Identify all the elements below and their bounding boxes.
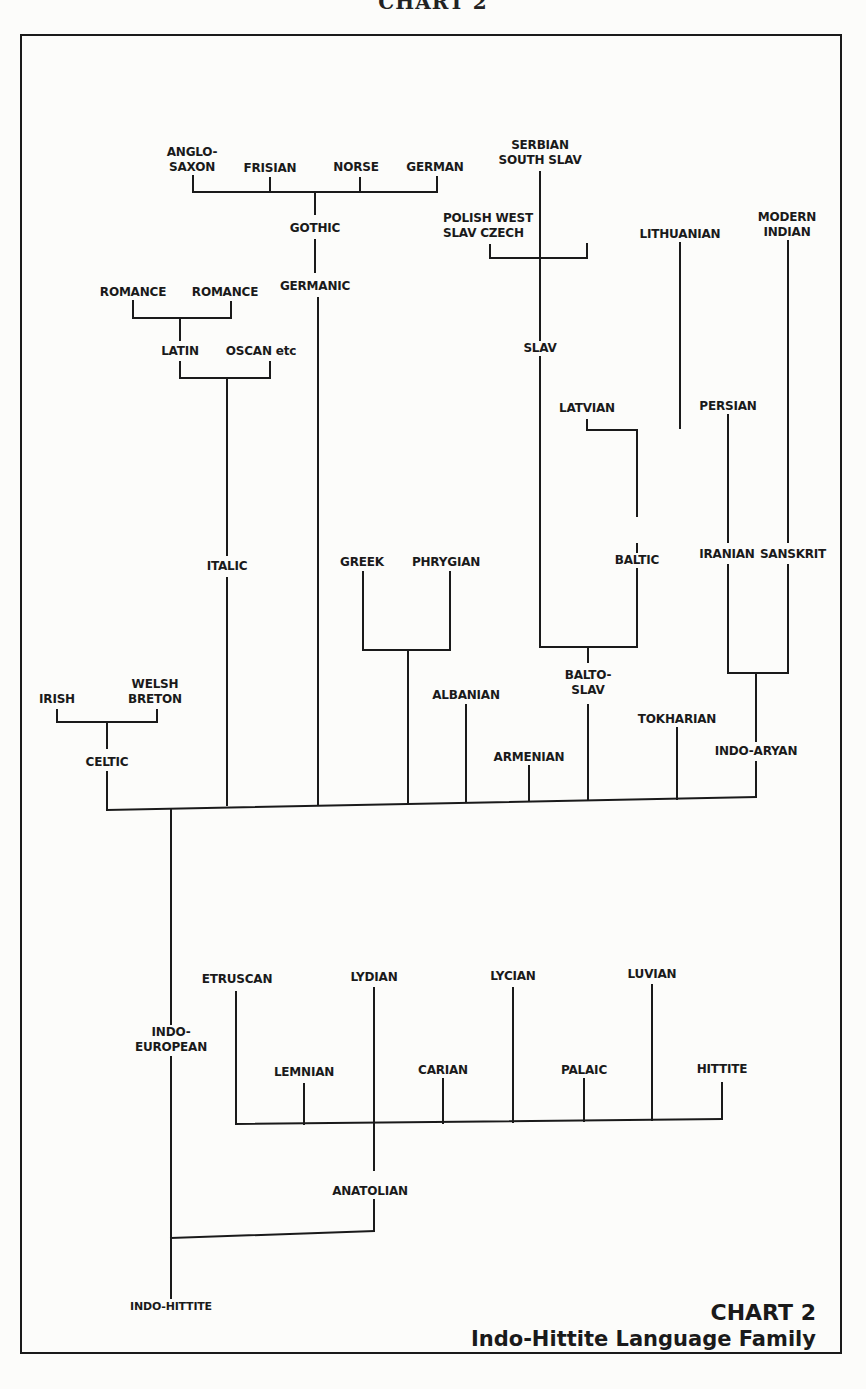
node-lemnian: LEMNIAN bbox=[273, 1065, 335, 1080]
indo-aryan-bracket bbox=[728, 673, 788, 797]
node-hittite: HITTITE bbox=[696, 1062, 749, 1077]
node-frisian: FRISIAN bbox=[243, 161, 298, 176]
node-welsh-breton: WELSH BRETON bbox=[127, 677, 183, 707]
node-sanskrit: SANSKRIT bbox=[759, 547, 827, 562]
node-persian: PERSIAN bbox=[698, 399, 757, 414]
node-lydian: LYDIAN bbox=[349, 970, 398, 985]
node-carian: CARIAN bbox=[417, 1063, 469, 1078]
germanic-bracket bbox=[193, 175, 437, 192]
node-indo-hittite: INDO-HITTITE bbox=[129, 1299, 213, 1314]
node-etruscan: ETRUSCAN bbox=[201, 972, 274, 987]
node-romance-2: ROMANCE bbox=[191, 285, 259, 300]
romance-bracket bbox=[133, 300, 231, 340]
node-tokharian: TOKHARIAN bbox=[637, 712, 717, 727]
node-italic: ITALIC bbox=[206, 559, 249, 574]
anatolian-bracket bbox=[171, 1231, 374, 1238]
node-norse: NORSE bbox=[332, 160, 379, 175]
node-phrygian: PHRYGIAN bbox=[411, 555, 481, 570]
latin-oscan-bracket bbox=[180, 362, 270, 805]
chart-caption: CHART 2 Indo-Hittite Language Family bbox=[471, 1300, 816, 1352]
chart-title: Indo-Hittite Language Family bbox=[471, 1326, 816, 1352]
west-slav-bracket bbox=[490, 244, 587, 258]
anatolian-bar bbox=[236, 1119, 722, 1124]
node-serbian-south-slav: SERBIAN SOUTH SLAV bbox=[497, 138, 582, 168]
node-iranian: IRANIAN bbox=[698, 547, 755, 562]
node-gothic: GOTHIC bbox=[289, 221, 341, 236]
node-lycian: LYCIAN bbox=[489, 969, 536, 984]
node-greek: GREEK bbox=[339, 555, 385, 570]
node-indo-aryan: INDO-ARYAN bbox=[714, 744, 799, 759]
node-indo-european: INDO- EUROPEAN bbox=[134, 1025, 208, 1055]
node-baltic: BALTIC bbox=[614, 553, 660, 568]
node-lithuanian: LITHUANIAN bbox=[639, 227, 722, 242]
node-armenian: ARMENIAN bbox=[493, 750, 566, 765]
node-anglo-saxon: ANGLO- SAXON bbox=[166, 145, 219, 175]
latvian-bracket bbox=[587, 420, 637, 647]
indo-european-bar bbox=[107, 797, 756, 810]
node-palaic: PALAIC bbox=[560, 1063, 608, 1078]
node-celtic: CELTIC bbox=[85, 755, 130, 770]
node-irish: IRISH bbox=[38, 692, 76, 707]
node-anatolian: ANATOLIAN bbox=[331, 1184, 409, 1199]
node-luvian: LUVIAN bbox=[627, 967, 678, 982]
node-albanian: ALBANIAN bbox=[431, 688, 501, 703]
node-balto-slav: BALTO- SLAV bbox=[564, 668, 612, 698]
chart-number: CHART 2 bbox=[471, 1300, 816, 1326]
node-german: GERMAN bbox=[405, 160, 464, 175]
node-latvian: LATVIAN bbox=[558, 401, 616, 416]
node-modern-indian: MODERN INDIAN bbox=[757, 210, 817, 240]
node-latin: LATIN bbox=[160, 344, 200, 359]
node-polish-west-slav-czech: POLISH WEST SLAV CZECH bbox=[442, 211, 534, 241]
node-germanic: GERMANIC bbox=[279, 279, 351, 294]
node-slav: SLAV bbox=[522, 341, 557, 356]
node-oscan: OSCAN etc bbox=[225, 344, 297, 359]
greek-phrygian-bracket bbox=[363, 572, 450, 802]
node-romance-1: ROMANCE bbox=[99, 285, 167, 300]
